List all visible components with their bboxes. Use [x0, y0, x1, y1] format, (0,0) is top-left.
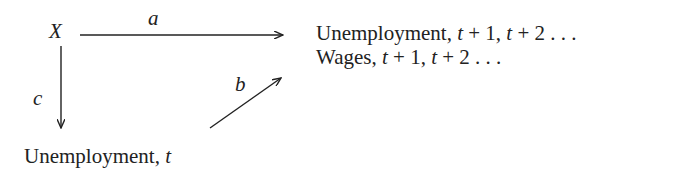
current-unemployment-prefix: Unemployment,	[24, 144, 165, 168]
time-variable: t	[165, 144, 171, 168]
future-wages-plus1: + 1,	[388, 45, 431, 69]
arrow-b	[210, 78, 281, 128]
future-unemployment-prefix: Unemployment,	[316, 21, 457, 45]
future-unemployment-plus2: + 2 . . .	[512, 21, 576, 45]
future-wages-plus2: + 2 . . .	[437, 45, 501, 69]
future-unemployment-plus1: + 1,	[463, 21, 506, 45]
node-future-wages: Wages, t + 1, t + 2 . . .	[316, 47, 501, 68]
node-future-unemployment: Unemployment, t + 1, t + 2 . . .	[316, 23, 577, 44]
node-current-unemployment: Unemployment, t	[24, 146, 171, 167]
future-wages-prefix: Wages,	[316, 45, 382, 69]
edge-label-b: b	[235, 74, 246, 95]
edge-label-a: a	[148, 8, 159, 29]
node-x: X	[49, 21, 62, 42]
edge-label-c: c	[33, 88, 42, 109]
